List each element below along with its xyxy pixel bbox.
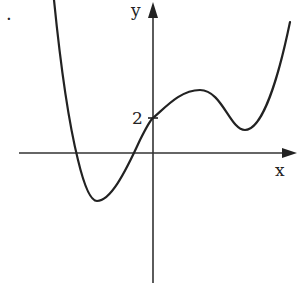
function-graph: . y x 2 <box>0 0 298 283</box>
x-axis-label: x <box>275 160 285 180</box>
function-curve <box>54 0 290 201</box>
y-intercept-label: 2 <box>132 108 143 128</box>
y-axis-label: y <box>130 0 141 20</box>
y-axis-arrow-icon <box>148 2 158 18</box>
bullet-mark: . <box>6 3 12 24</box>
x-axis-arrow-icon <box>282 148 297 158</box>
